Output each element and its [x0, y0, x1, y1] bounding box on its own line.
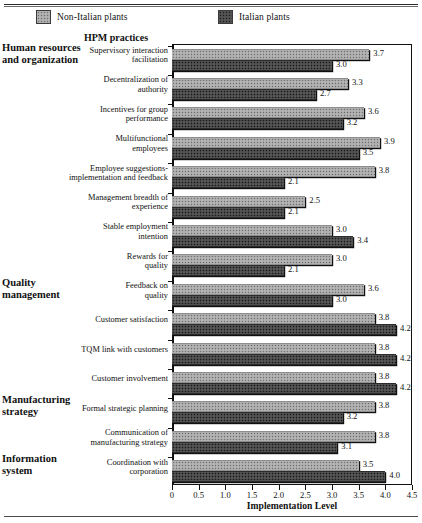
top-divider-secondary: [4, 6, 418, 7]
y-axis-tick: [168, 310, 173, 311]
bar-groups-container: 3.73.03.32.73.63.23.93.53.82.12.52.13.03…: [172, 44, 412, 485]
practice-label-line: Communication of: [46, 428, 168, 438]
bar-group: 3.63.0: [172, 281, 412, 311]
bar-group: 3.83.1: [172, 428, 412, 458]
bar-value-label: 3.1: [341, 442, 352, 451]
bar-value-label: 3.8: [379, 372, 390, 381]
bar-non-italian: [172, 225, 332, 236]
bar-non-italian: [172, 460, 359, 471]
section-label: Human resourcesand organization: [2, 42, 88, 66]
y-axis-tick: [168, 340, 173, 341]
bar-non-italian: [172, 166, 375, 177]
bottom-divider: [4, 516, 418, 517]
bar-italian: [172, 207, 284, 218]
section-label-line: strategy: [2, 406, 88, 418]
section-label-line: system: [2, 465, 88, 477]
y-axis-tick: [168, 75, 173, 76]
practice-label-line: employees: [46, 144, 168, 154]
practice-label-line: Multifunctional: [46, 134, 168, 144]
bar-group: 2.52.1: [172, 193, 412, 223]
section-label: Manufacturingstrategy: [2, 394, 88, 418]
section-label-line: Manufacturing: [2, 394, 88, 406]
bar-group: 3.73.0: [172, 46, 412, 76]
practice-label-line: Stable employment: [46, 222, 168, 232]
practice-label-line: performance: [46, 114, 168, 124]
bar-italian: [172, 148, 359, 159]
bar-value-label: 2.1: [288, 207, 299, 216]
bar-value-label: 2.5: [309, 196, 320, 205]
bar-value-label: 3.9: [384, 137, 395, 146]
practice-label-line: manufacturing strategy: [46, 438, 168, 448]
y-axis-tick: [168, 222, 173, 223]
y-axis-tick: [168, 193, 173, 194]
bar-italian: [172, 118, 343, 129]
bar-value-label: 3.0: [336, 60, 347, 69]
section-label: Qualitymanagement: [2, 277, 88, 301]
practice-label-line: Decentralization of: [46, 75, 168, 85]
section-label-line: management: [2, 289, 88, 301]
bar-non-italian: [172, 401, 375, 412]
x-axis-tick-label: 2.5: [300, 490, 311, 500]
section-label-line: Human resources: [2, 42, 88, 54]
bar-italian: [172, 60, 332, 71]
bar-italian: [172, 89, 316, 100]
practice-label: Multifunctionalemployees: [46, 134, 168, 153]
practice-label-line: experience: [46, 202, 168, 212]
bar-value-label: 3.0: [336, 225, 347, 234]
bar-value-label: 4.2: [400, 354, 411, 363]
bar-italian: [172, 354, 396, 365]
legend-swatch-icon-non-italian: [36, 10, 51, 24]
practice-label: TQM link with customers: [46, 345, 168, 355]
bar-italian: [172, 177, 284, 188]
y-axis-tick: [168, 398, 173, 399]
bar-value-label: 4.2: [400, 383, 411, 392]
bar-group: 3.84.2: [172, 310, 412, 340]
practice-label: Incentives for groupperformance: [46, 105, 168, 124]
bar-value-label: 3.8: [379, 343, 390, 352]
bar-value-label: 3.4: [357, 236, 368, 245]
bar-value-label: 3.3: [352, 78, 363, 87]
x-axis-tick-label: 4.0: [380, 490, 391, 500]
x-axis-tick-label: 0: [170, 490, 174, 500]
y-axis-tick: [168, 251, 173, 252]
bar-non-italian: [172, 137, 380, 148]
legend-label-italian: Italian plants: [239, 12, 290, 22]
bar-value-label: 3.8: [379, 431, 390, 440]
practice-label: Employee suggestions-implementation and …: [46, 164, 168, 183]
bar-non-italian: [172, 107, 364, 118]
x-axis-tick-label: 0.5: [193, 490, 204, 500]
bar-value-label: 3.7: [373, 49, 384, 58]
bar-value-label: 3.8: [379, 401, 390, 410]
bar-group: 3.84.2: [172, 340, 412, 370]
bar-value-label: 3.5: [363, 460, 374, 469]
practice-label: Customer satisfaction: [46, 315, 168, 325]
practice-label-line: Customer satisfaction: [46, 315, 168, 325]
x-axis-tick-label: 1.5: [247, 490, 258, 500]
practice-label: Customer involvement: [46, 374, 168, 384]
chart-legend: Non-Italian plants Italian plants: [0, 10, 422, 28]
bar-non-italian: [172, 372, 375, 383]
section-label-line: Quality: [2, 277, 88, 289]
x-axis-tick-label: 4.5: [407, 490, 418, 500]
y-axis-tick: [168, 428, 173, 429]
y-axis-tick: [168, 46, 173, 47]
bar-italian: [172, 471, 385, 482]
practice-label: Management breadth ofexperience: [46, 193, 168, 212]
practice-label: Stable employmentintention: [46, 222, 168, 241]
bar-value-label: 3.8: [379, 313, 390, 322]
practice-label: Decentralization ofauthority: [46, 75, 168, 94]
practice-label-line: TQM link with customers: [46, 345, 168, 355]
section-label: Informationsystem: [2, 453, 88, 477]
practice-label-line: Rewards for: [46, 252, 168, 262]
x-axis-tick-label: 3.0: [327, 490, 338, 500]
bar-italian: [172, 295, 332, 306]
bar-value-label: 2.1: [288, 265, 299, 274]
bar-value-label: 3.6: [368, 284, 379, 293]
practice-label-line: Management breadth of: [46, 193, 168, 203]
chart-page: Non-Italian plants Italian plants HPM pr…: [0, 0, 422, 523]
bar-value-label: 2.1: [288, 177, 299, 186]
x-axis-tick-label: 3.5: [353, 490, 364, 500]
bar-non-italian: [172, 49, 369, 60]
bar-non-italian: [172, 254, 332, 265]
bar-value-label: 2.7: [320, 89, 331, 98]
